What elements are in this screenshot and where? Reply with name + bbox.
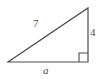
right-angle-marker-icon xyxy=(79,53,88,62)
vertical-leg-length-label: 4 xyxy=(90,27,96,38)
triangle-drawing xyxy=(0,0,102,79)
hypotenuse-length-label: 7 xyxy=(33,18,39,29)
right-triangle-figure: 7 4 a xyxy=(0,0,102,79)
base-leg-variable-label: a xyxy=(43,65,49,76)
triangle-outline xyxy=(8,8,88,62)
